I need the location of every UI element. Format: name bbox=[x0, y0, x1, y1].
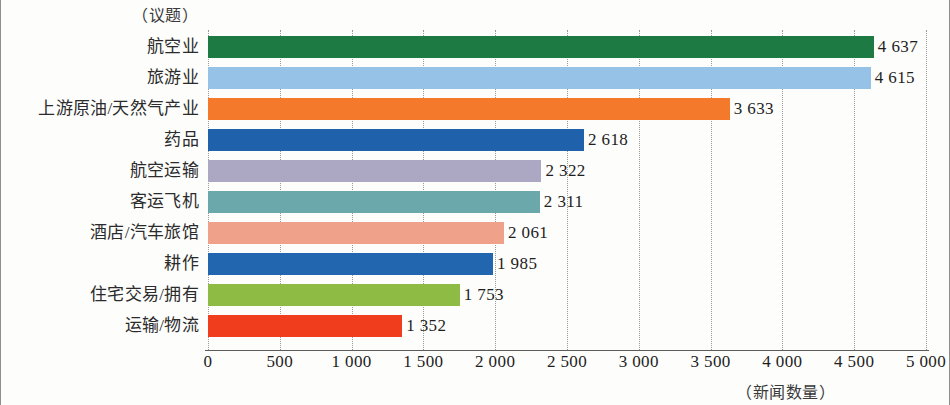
x-axis-tick: 0 bbox=[204, 352, 213, 372]
x-axis-tick: 3 000 bbox=[619, 352, 659, 372]
category-label: 客运飞机 bbox=[1, 191, 203, 213]
x-axis-tick: 2 000 bbox=[475, 352, 515, 372]
bar-value-label: 4 637 bbox=[874, 37, 918, 57]
bar-row: 2 061 bbox=[208, 222, 926, 244]
bar-row: 2 311 bbox=[208, 191, 926, 213]
category-label: 酒店/汽车旅馆 bbox=[1, 222, 203, 244]
x-axis-tick: 500 bbox=[266, 352, 293, 372]
x-axis-tick: 3 500 bbox=[690, 352, 730, 372]
bar bbox=[208, 315, 402, 337]
x-axis-tick: 4 500 bbox=[834, 352, 874, 372]
x-axis-line bbox=[205, 350, 929, 351]
bar-row: 1 985 bbox=[208, 253, 926, 275]
category-label: 航空业 bbox=[1, 36, 203, 58]
bar bbox=[208, 98, 730, 120]
category-label: 运输/物流 bbox=[1, 315, 203, 337]
x-axis-tick: 2 500 bbox=[547, 352, 587, 372]
x-axis-tick: 1 000 bbox=[331, 352, 371, 372]
bar-row: 4 615 bbox=[208, 67, 926, 89]
bar-row: 1 352 bbox=[208, 315, 926, 337]
bar-value-label: 1 352 bbox=[402, 316, 446, 336]
bar-row: 3 633 bbox=[208, 98, 926, 120]
bar-row: 2 322 bbox=[208, 160, 926, 182]
bar bbox=[208, 160, 541, 182]
bar-value-label: 1 985 bbox=[493, 254, 537, 274]
category-label: 旅游业 bbox=[1, 67, 203, 89]
bar bbox=[208, 253, 493, 275]
category-label-column: 航空业旅游业上游原油/天然气产业药品航空运输客运飞机酒店/汽车旅馆耕作住宅交易/… bbox=[1, 30, 203, 350]
category-label: 上游原油/天然气产业 bbox=[1, 98, 203, 120]
bar bbox=[208, 129, 584, 151]
bar-chart: （议题） 航空业旅游业上游原油/天然气产业药品航空运输客运飞机酒店/汽车旅馆耕作… bbox=[0, 0, 950, 405]
gridline bbox=[926, 30, 927, 350]
category-label: 住宅交易/拥有 bbox=[1, 284, 203, 306]
bar-row: 4 637 bbox=[208, 36, 926, 58]
x-axis-tick: 4 000 bbox=[762, 352, 802, 372]
x-axis-title: （新闻数量） bbox=[736, 379, 835, 403]
bar-row: 2 618 bbox=[208, 129, 926, 151]
bar bbox=[208, 36, 874, 58]
bar-value-label: 1 753 bbox=[460, 285, 504, 305]
plot-area: 4 6374 6153 6332 6182 3222 3112 0611 985… bbox=[208, 30, 926, 350]
bar-value-label: 2 311 bbox=[540, 192, 584, 212]
category-label: 耕作 bbox=[1, 253, 203, 275]
category-label: 药品 bbox=[1, 129, 203, 151]
bar-value-label: 3 633 bbox=[730, 99, 774, 119]
bar-row: 1 753 bbox=[208, 284, 926, 306]
y-axis-title: （议题） bbox=[105, 2, 225, 26]
x-axis-tick-labels: 05001 0001 5002 0002 5003 0003 5004 0004… bbox=[1, 352, 950, 378]
bar bbox=[208, 284, 460, 306]
bar bbox=[208, 67, 871, 89]
bar-rows: 4 6374 6153 6332 6182 3222 3112 0611 985… bbox=[208, 30, 926, 350]
bar-value-label: 2 322 bbox=[541, 161, 585, 181]
x-axis-tick: 1 500 bbox=[403, 352, 443, 372]
bar-value-label: 4 615 bbox=[871, 68, 915, 88]
bar bbox=[208, 191, 540, 213]
category-label: 航空运输 bbox=[1, 160, 203, 182]
bar-value-label: 2 061 bbox=[504, 223, 548, 243]
x-axis-tick: 5 000 bbox=[906, 352, 946, 372]
bar bbox=[208, 222, 504, 244]
bar-value-label: 2 618 bbox=[584, 130, 628, 150]
